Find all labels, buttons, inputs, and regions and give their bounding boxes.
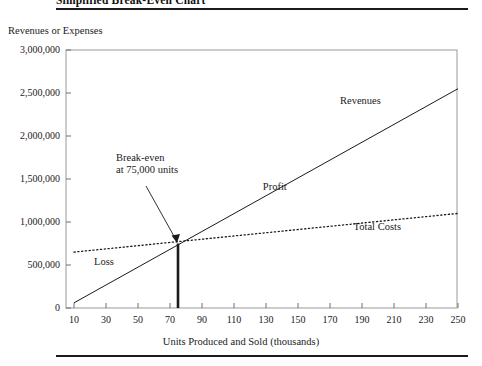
x-axis-tick-label: 110 xyxy=(219,314,249,325)
break-even-arrow xyxy=(146,186,180,243)
x-axis-tick-label: 190 xyxy=(347,314,377,325)
break-even-annotation-line1: Break-even xyxy=(116,152,178,165)
y-axis-tick-label: 2,000,000 xyxy=(2,130,60,141)
x-axis-tick-label: 10 xyxy=(59,314,89,325)
plot-canvas xyxy=(0,0,482,366)
y-axis-tick-label: 1,500,000 xyxy=(2,173,60,184)
series-label-total-costs: Total Costs xyxy=(354,221,401,232)
series-line-revenues xyxy=(74,89,458,303)
x-axis-ticks xyxy=(74,303,458,308)
break-even-annotation-line2: at 75,000 units xyxy=(116,164,178,177)
x-axis-tick-label: 230 xyxy=(411,314,441,325)
y-axis-tick-label: 0 xyxy=(2,302,60,313)
x-axis-tick-label: 50 xyxy=(123,314,153,325)
y-axis-tick-label: 3,000,000 xyxy=(2,44,60,55)
series-line-total-costs xyxy=(74,213,458,252)
series-label-revenues: Revenues xyxy=(340,95,381,106)
y-axis-ticks xyxy=(66,50,71,308)
x-axis-tick-label: 70 xyxy=(155,314,185,325)
x-axis-tick-label: 150 xyxy=(283,314,313,325)
x-axis-tick-label: 30 xyxy=(91,314,121,325)
x-axis-tick-label: 170 xyxy=(315,314,345,325)
y-axis-tick-label: 2,500,000 xyxy=(2,87,60,98)
plot-frame xyxy=(66,50,457,308)
x-axis-tick-label: 90 xyxy=(187,314,217,325)
break-even-annotation: Break-even at 75,000 units xyxy=(116,152,178,177)
x-axis-tick-label: 130 xyxy=(251,314,281,325)
y-axis-tick-label: 1,000,000 xyxy=(2,216,60,227)
x-axis-tick-label: 210 xyxy=(379,314,409,325)
region-label-profit: Profit xyxy=(263,181,287,192)
break-even-chart-figure: Simplified Break-Even Chart Revenues or … xyxy=(0,0,482,366)
region-label-loss: Loss xyxy=(94,256,114,267)
x-axis-tick-label: 250 xyxy=(443,314,473,325)
y-axis-tick-label: 500,000 xyxy=(2,259,60,270)
